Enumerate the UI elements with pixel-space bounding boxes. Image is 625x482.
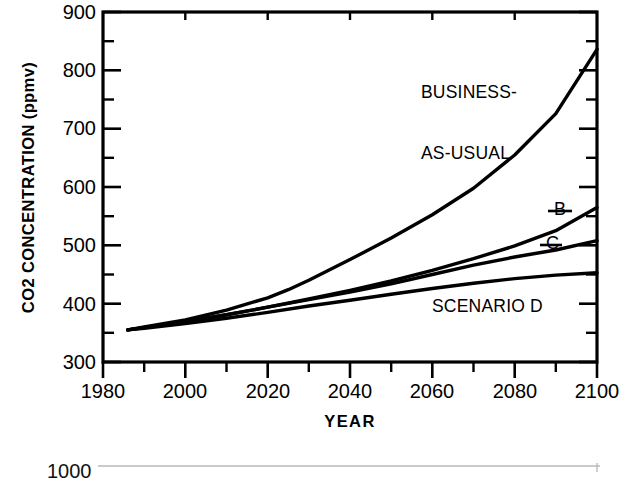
- x-major-ticks: [103, 362, 597, 378]
- annotation-scenario-d: SCENARIO D: [432, 296, 543, 316]
- annotation-bau-line2: AS-USUAL: [421, 143, 517, 163]
- annotation-scenario-b: B: [554, 199, 566, 220]
- annotation-business-as-usual: BUSINESS- AS-USUAL: [421, 42, 517, 203]
- second-panel-y-tick-label-1000: 1000: [47, 461, 92, 481]
- annotation-scenario-c: C: [546, 233, 559, 254]
- y-major-ticks: [103, 12, 121, 362]
- annotation-bau-line1: BUSINESS-: [421, 82, 517, 102]
